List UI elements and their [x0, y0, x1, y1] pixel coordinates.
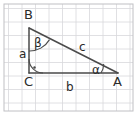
angle-label-beta: β	[34, 36, 42, 50]
vertex-label-A: A	[113, 74, 122, 89]
angle-label-alpha: α	[92, 63, 100, 77]
side-label-a: a	[19, 47, 26, 61]
side-label-c: c	[79, 40, 86, 54]
side-label-b: b	[66, 80, 74, 94]
vertex-label-B: B	[24, 7, 33, 22]
geometry-figure: B C A a b c β α	[0, 0, 137, 115]
right-angle-dot-icon	[33, 66, 35, 68]
triangle-canvas: B C A a b c β α	[0, 0, 137, 115]
vertex-label-C: C	[24, 74, 33, 89]
